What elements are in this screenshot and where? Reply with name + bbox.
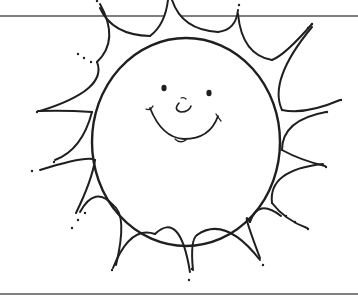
nose bbox=[176, 103, 191, 112]
nose-top bbox=[181, 98, 186, 99]
sun-face bbox=[146, 85, 221, 142]
left-eye bbox=[161, 85, 166, 91]
mouth-smile bbox=[150, 108, 218, 139]
sun-drawing: smiling sun coloring page bbox=[0, 0, 358, 297]
right-eye bbox=[206, 90, 211, 96]
sun-rays bbox=[38, 0, 340, 272]
